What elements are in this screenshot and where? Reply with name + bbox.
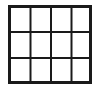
grid-icon (8, 5, 92, 84)
grid-icon-svg (8, 5, 92, 84)
